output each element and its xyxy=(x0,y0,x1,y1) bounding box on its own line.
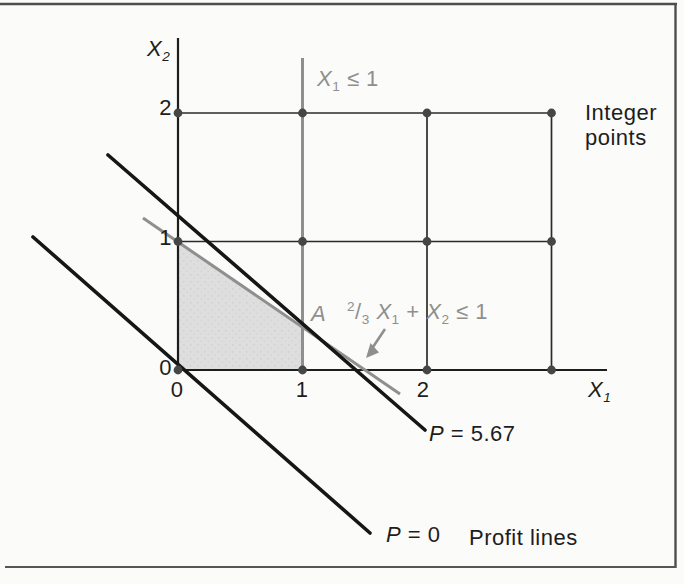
constraint-frac-den: 3 xyxy=(362,312,370,327)
y-tick-0: 0 xyxy=(138,357,172,379)
integer-point-3-0 xyxy=(547,366,556,375)
constraint-label-two-thirds: 2/3 X1 + X2 ≤ 1 xyxy=(347,301,488,323)
integer-point-2-2 xyxy=(423,109,432,118)
p0-value: = 0 xyxy=(401,522,440,547)
constraint-var1-sub: 1 xyxy=(392,312,400,327)
x-axis-label-sub: 1 xyxy=(603,390,611,405)
profit-line-p567 xyxy=(108,155,425,430)
constraint-var1: X xyxy=(370,299,392,324)
integer-point-0-2 xyxy=(174,109,183,118)
constraint-rest: ≤ 1 xyxy=(450,299,489,324)
x-axis-label-base: X xyxy=(588,377,603,402)
constraint-label-x1: X1 ≤ 1 xyxy=(317,68,379,90)
integer-point-2-1 xyxy=(423,237,432,246)
constraint-plus: + xyxy=(400,299,427,324)
x-axis-label: X1 xyxy=(588,379,611,401)
x-tick-0: 0 xyxy=(162,379,192,401)
integer-point-1-2 xyxy=(298,109,307,118)
p567-var: P xyxy=(429,421,444,446)
y-tick-1: 1 xyxy=(138,227,172,249)
integer-point-3-2 xyxy=(547,109,556,118)
constraint-frac-slash: / xyxy=(355,299,362,324)
vertex-a-label: A xyxy=(311,303,326,325)
profit-label-p0: P = 0 xyxy=(386,524,441,546)
constraint-frac-num: 2 xyxy=(347,299,355,314)
integer-point-2-0 xyxy=(423,366,432,375)
x-tick-2: 2 xyxy=(408,379,438,401)
integer-point-0-0 xyxy=(174,366,183,375)
y-axis-label-base: X xyxy=(147,36,162,61)
y-axis-label-sub: 2 xyxy=(162,49,170,64)
integer-point-1-1 xyxy=(298,237,307,246)
constraint-x1-rest: ≤ 1 xyxy=(340,66,379,91)
integer-points-line2: points xyxy=(585,125,647,150)
lp-figure: X2 X1 2 1 0 0 1 2 X1 ≤ 1 2/3 X1 + X2 ≤ 1… xyxy=(0,0,684,584)
integer-point-3-1 xyxy=(547,237,556,246)
constraint-var2-sub: 2 xyxy=(441,312,449,327)
constraint-x1-var: X xyxy=(317,66,332,91)
p0-var: P xyxy=(386,522,401,547)
y-axis-label: X2 xyxy=(147,38,170,60)
integer-points-caption: Integerpoints xyxy=(585,101,657,150)
annotation-arrow-icon xyxy=(366,329,385,358)
profit-label-p567: P = 5.67 xyxy=(429,423,516,445)
integer-point-1-0 xyxy=(298,366,307,375)
profit-lines-caption: Profit lines xyxy=(469,527,578,549)
x-tick-1: 1 xyxy=(287,379,317,401)
integer-points-line1: Integer xyxy=(585,100,657,125)
p567-value: = 5.67 xyxy=(444,421,515,446)
integer-point-0-1 xyxy=(174,237,183,246)
y-tick-2: 2 xyxy=(138,97,172,119)
constraint-var2: X xyxy=(426,299,441,324)
